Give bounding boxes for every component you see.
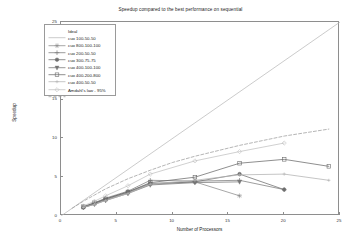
- legend-item: cuo 800-100-100: [47, 42, 113, 49]
- legend-item: cuo 300-75-75: [47, 57, 113, 64]
- y-tick-label: 25: [41, 19, 57, 24]
- legend-label: cuo 800-100-100: [67, 42, 101, 49]
- legend-item: Ideal: [47, 28, 113, 35]
- figure: Speedup compared to the best performance…: [0, 0, 361, 244]
- legend-symbol: [47, 42, 67, 49]
- legend-item: cuo 400-50-50: [47, 79, 113, 86]
- x-tick-label: 10: [157, 218, 187, 223]
- legend-label: cuo 400-100-100: [67, 64, 101, 71]
- y-tick-label: 10: [41, 135, 57, 140]
- legend-symbol: [47, 28, 67, 35]
- x-tick-label: 25: [324, 218, 354, 223]
- x-tick-label: 0: [45, 218, 75, 223]
- legend: Idealcuo 100-50-50cuo 800-100-100cuo 200…: [44, 24, 116, 96]
- legend-label: cuo 400-200-800: [67, 72, 101, 79]
- legend-item: cuo 400-100-100: [47, 64, 113, 71]
- legend-symbol: [47, 79, 67, 86]
- y-tick-mark: [60, 21, 63, 22]
- y-axis-label: Speedup: [12, 83, 17, 143]
- x-tick-label: 15: [212, 218, 242, 223]
- y-tick-mark: [60, 176, 63, 177]
- legend-symbol: [47, 50, 67, 57]
- legend-label: cuo 200-50-50: [67, 50, 96, 57]
- legend-label: cuo 400-50-50: [67, 79, 96, 86]
- legend-symbol: [47, 57, 67, 64]
- legend-label: Ideal: [67, 28, 77, 35]
- chart-title: Speedup compared to the best performance…: [0, 7, 361, 12]
- series-4: [81, 180, 241, 210]
- legend-symbol: [47, 87, 67, 94]
- x-tick-mark: [283, 212, 284, 215]
- x-axis-label: Number of Processors: [60, 227, 339, 232]
- y-tick-mark: [60, 137, 63, 138]
- legend-label: cuo 100-50-50: [67, 35, 96, 42]
- x-tick-mark: [172, 212, 173, 215]
- series-6: [82, 172, 331, 209]
- legend-symbol: [47, 72, 67, 79]
- x-tick-mark: [116, 212, 117, 215]
- legend-symbol: [47, 35, 67, 42]
- y-tick-label: 0: [41, 213, 57, 218]
- x-tick-label: 5: [101, 218, 131, 223]
- legend-symbol: [47, 64, 67, 71]
- y-tick-label: 5: [41, 174, 57, 179]
- x-tick-mark: [339, 212, 340, 215]
- legend-item: cuo 100-50-50: [47, 35, 113, 42]
- legend-item: cuo 400-200-800: [47, 72, 113, 79]
- legend-label: cuo 300-75-75: [67, 57, 96, 64]
- x-tick-mark: [227, 212, 228, 215]
- legend-item: Amdahl's law - 95%: [47, 87, 113, 94]
- series-3: [82, 172, 286, 209]
- legend-label: Amdahl's law - 95%: [67, 87, 106, 94]
- legend-item: cuo 200-50-50: [47, 50, 113, 57]
- x-tick-label: 20: [268, 218, 298, 223]
